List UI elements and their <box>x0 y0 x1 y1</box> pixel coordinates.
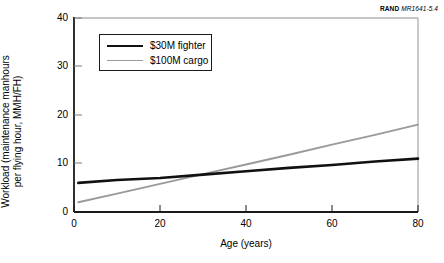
plot-area <box>0 0 444 263</box>
series-line-100m-cargo <box>78 125 418 203</box>
legend: $30M fighter $100M cargo <box>99 34 212 71</box>
legend-swatch-100m-cargo <box>107 60 143 61</box>
legend-entry-100m-cargo[interactable]: $100M cargo <box>100 53 211 68</box>
figure-container: RANDMR1641-5.4 Workload (maintenance man… <box>0 0 444 263</box>
legend-entry-30m-fighter[interactable]: $30M fighter <box>100 38 211 53</box>
series-line-30m-fighter <box>78 159 418 183</box>
legend-swatch-30m-fighter <box>107 45 143 47</box>
legend-label-100m-cargo: $100M cargo <box>150 55 208 66</box>
legend-label-30m-fighter: $30M fighter <box>150 40 206 51</box>
